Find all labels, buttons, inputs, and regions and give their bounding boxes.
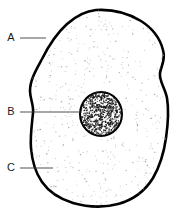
nucleus-dot [100,100,101,101]
nucleus-dot [86,107,87,108]
cytoplasm-dot [32,16,33,17]
nucleus-dot [106,115,107,116]
nucleus-dot [95,108,96,109]
cytoplasm-dot [74,202,75,203]
nucleus-dot [95,134,96,135]
nucleus-dot [98,133,99,134]
cytoplasm-dot [33,77,34,78]
nucleus-dot [104,97,105,98]
nucleus-dot [114,112,115,113]
nucleus-dot [108,98,109,99]
nucleus-dot [90,118,91,119]
nucleus-dot [98,95,99,96]
cytoplasm-dot [106,29,107,30]
cytoplasm-dot [111,138,112,139]
nucleus-dot [107,127,108,128]
nucleus-dot [100,128,101,129]
cytoplasm-dot [126,74,127,75]
cytoplasm-dot [67,116,68,117]
cytoplasm-dot [35,79,36,80]
cytoplasm-dot [137,125,138,126]
cytoplasm-dot [161,181,162,182]
cytoplasm-dot [168,67,169,68]
cytoplasm-dot [170,96,171,97]
nucleus-dot [117,117,118,118]
cytoplasm-dot [72,199,73,200]
cytoplasm-dot [169,17,170,18]
cytoplasm-dot [167,57,168,58]
cytoplasm-dot [84,134,85,135]
cytoplasm-dot [34,130,35,131]
nucleus-dot [116,106,117,107]
nucleus-dot [92,132,93,133]
cytoplasm-dot [36,140,37,141]
cytoplasm-dot [54,124,55,125]
nucleus-dot [94,130,95,131]
cytoplasm-dot [128,51,129,52]
nucleus-dot [105,110,106,111]
cytoplasm-dot [102,174,103,175]
nucleus-dot [86,105,87,106]
nucleus-dot [90,100,91,101]
cytoplasm-dot [108,156,109,157]
nucleus-dot [88,98,89,99]
nucleus-dot [109,132,110,133]
cytoplasm-dot [76,35,77,36]
cytoplasm-dot [70,108,71,109]
cytoplasm-dot [56,198,57,199]
cytoplasm-dot [71,54,72,55]
cytoplasm-dot [53,187,54,188]
nucleus-dot [94,107,95,108]
cytoplasm-dot [69,99,70,100]
cytoplasm-dot [59,40,60,41]
cytoplasm-dot [168,12,169,13]
nucleus-dot [95,114,96,115]
cytoplasm-dot [107,163,108,164]
nucleus-dot [91,103,92,104]
cytoplasm-dot [72,168,73,169]
cytoplasm-dot [145,173,146,174]
cell-diagram: ABC [0,0,177,222]
cytoplasm-dot [63,107,64,108]
cytoplasm-dot [153,167,154,168]
cytoplasm-dot [35,28,36,29]
cytoplasm-dot [77,51,78,52]
nucleus-dot [104,94,105,95]
nucleus-dot [112,109,113,110]
cytoplasm-dot [113,137,114,138]
nucleus-dot [82,106,83,107]
cytoplasm-dot [101,61,102,62]
nucleus-dot [83,122,84,123]
nucleus-dot [87,115,88,116]
cytoplasm-dot [66,171,67,172]
nucleus-dot [92,128,93,129]
nucleus-dot [86,112,87,113]
cytoplasm-dot [103,52,104,53]
cytoplasm-dot [95,194,96,195]
nucleus-dot [100,116,101,117]
cytoplasm-dot [105,178,106,179]
nucleus-dot [89,106,90,107]
cytoplasm-dot [79,162,80,163]
cytoplasm-dot [151,118,152,119]
cytoplasm-dot [71,26,72,27]
nucleus-dot [89,123,90,124]
cytoplasm-dot [104,183,105,184]
cytoplasm-dot [43,9,44,10]
cytoplasm-dot [88,50,89,51]
nucleus-dot [85,104,86,105]
cytoplasm-dot [152,44,153,45]
cytoplasm-dot [39,108,40,109]
nucleus-dot [95,94,96,95]
nucleus-dot [110,131,111,132]
nucleus-dot [105,102,106,103]
cytoplasm-dot [57,180,58,181]
nucleus-dot [100,115,101,116]
cytoplasm-dot [33,60,34,61]
cytoplasm-dot [86,171,87,172]
cytoplasm-dot [62,58,63,59]
cytoplasm-dot [136,8,137,9]
cytoplasm-dot [87,169,88,170]
cytoplasm-dot [101,67,102,68]
cytoplasm-dot [100,197,101,198]
